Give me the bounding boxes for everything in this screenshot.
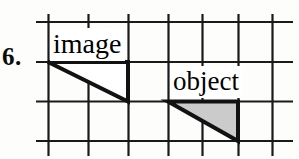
item-number: 6. (2, 43, 22, 71)
object-label: object (170, 66, 243, 98)
image-label: image (50, 28, 125, 61)
figure-canvas (0, 0, 299, 159)
geometry-figure: 6. image object (0, 0, 299, 159)
